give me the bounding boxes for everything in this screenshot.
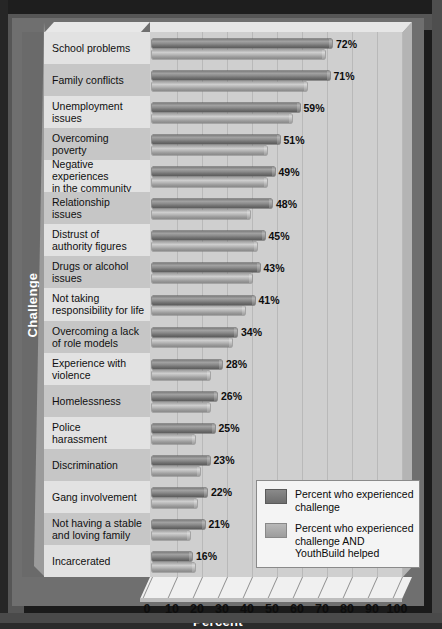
bar-value-label: 72% xyxy=(336,39,357,49)
bar-value-label: 51% xyxy=(284,135,305,145)
bar-series-2 xyxy=(152,274,252,283)
bar-series-2 xyxy=(152,403,210,412)
bar-series-1 xyxy=(152,456,210,465)
bar-group: 23% xyxy=(12,449,424,481)
bottom-border-band xyxy=(0,613,442,623)
bar-series-1 xyxy=(152,328,237,337)
bar-value-label: 43% xyxy=(264,263,285,273)
bar-group: 48% xyxy=(12,192,424,224)
bar-group: 26% xyxy=(12,385,424,417)
bar-value-label: 34% xyxy=(241,327,262,337)
bar-series-1 xyxy=(152,392,217,401)
bar-series-1 xyxy=(152,231,265,240)
x-axis-tick xyxy=(367,577,378,599)
x-axis-tick xyxy=(342,577,353,599)
bar-value-label: 71% xyxy=(334,71,355,81)
bar-value-label: 25% xyxy=(219,423,240,433)
bar-series-2 xyxy=(152,178,267,187)
bar-value-label: 48% xyxy=(276,199,297,209)
bar-group: 51% xyxy=(12,128,424,160)
bar-series-2 xyxy=(152,82,307,91)
bar-group: 16% xyxy=(12,545,424,577)
bar-series-1 xyxy=(152,424,215,433)
x-axis-tick xyxy=(192,577,203,599)
bar-series-1 xyxy=(152,71,330,80)
bar-series-2 xyxy=(152,563,195,572)
bar-group: 71% xyxy=(12,64,424,96)
x-axis-tick xyxy=(267,577,278,599)
bar-chart: Challenge School problemsFamily conflict… xyxy=(12,18,424,606)
x-axis-floor xyxy=(140,577,412,599)
bar-group: 28% xyxy=(12,353,424,385)
bar-group: 43% xyxy=(12,256,424,288)
bar-series-1 xyxy=(152,167,275,176)
x-axis-tick xyxy=(142,577,153,599)
right-border-band xyxy=(432,0,442,623)
bar-series-2 xyxy=(152,50,325,59)
bar-series-2 xyxy=(152,146,267,155)
bar-series-1 xyxy=(152,39,332,48)
bar-group: 72% xyxy=(12,32,424,64)
bar-series-2 xyxy=(152,499,197,508)
bar-series-2 xyxy=(152,306,245,315)
bar-value-label: 26% xyxy=(221,391,242,401)
bar-series-1 xyxy=(152,135,280,144)
bar-value-label: 28% xyxy=(226,359,247,369)
bar-series-1 xyxy=(152,360,222,369)
bar-series-2 xyxy=(152,467,200,476)
bar-series-1 xyxy=(152,296,255,305)
x-axis-tick xyxy=(242,577,253,599)
bar-series-1 xyxy=(152,263,260,272)
left-border-band xyxy=(0,0,8,623)
x-axis-tick xyxy=(317,577,328,599)
bar-group: 22% xyxy=(12,481,424,513)
bar-value-label: 21% xyxy=(209,519,230,529)
bar-series-1 xyxy=(152,552,192,561)
bar-series-1 xyxy=(152,520,205,529)
bar-group: 34% xyxy=(12,321,424,353)
bar-group: 49% xyxy=(12,160,424,192)
bar-group: 21% xyxy=(12,513,424,545)
x-axis-tick xyxy=(217,577,228,599)
bar-series-1 xyxy=(152,103,300,112)
bar-series-2 xyxy=(152,242,257,251)
bar-series-1 xyxy=(152,199,272,208)
bar-group: 25% xyxy=(12,417,424,449)
bar-value-label: 45% xyxy=(269,231,290,241)
bar-value-label: 23% xyxy=(214,455,235,465)
bar-series-2 xyxy=(152,435,195,444)
x-axis-tick xyxy=(292,577,303,599)
bar-series-2 xyxy=(152,371,210,380)
top-border-band xyxy=(0,0,442,14)
bar-group: 41% xyxy=(12,288,424,320)
bar-group: 59% xyxy=(12,96,424,128)
x-axis-tick xyxy=(392,577,403,599)
bar-group: 45% xyxy=(12,224,424,256)
bar-value-label: 22% xyxy=(211,487,232,497)
bar-value-label: 16% xyxy=(196,551,217,561)
bar-value-label: 49% xyxy=(279,167,300,177)
bar-series-1 xyxy=(152,488,207,497)
bar-series-2 xyxy=(152,210,250,219)
bar-series-2 xyxy=(152,338,232,347)
bar-value-label: 59% xyxy=(304,103,325,113)
bar-series-2 xyxy=(152,531,190,540)
bar-value-label: 41% xyxy=(259,295,280,305)
x-axis-tick xyxy=(167,577,178,599)
bar-series-2 xyxy=(152,114,292,123)
